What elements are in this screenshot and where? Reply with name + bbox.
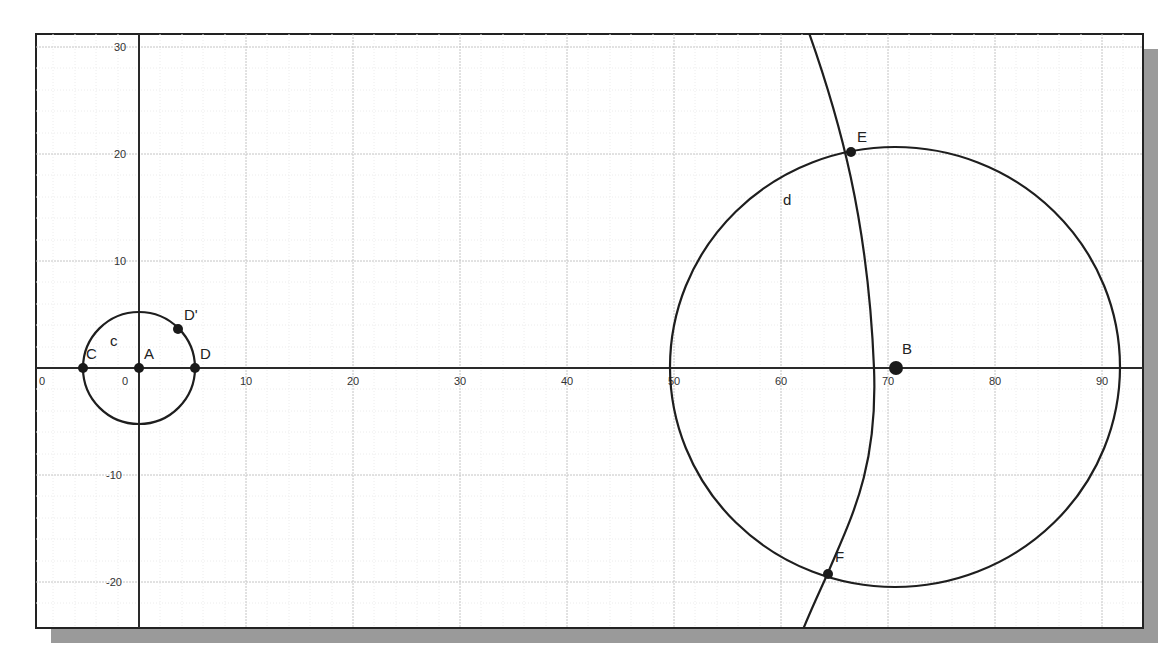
label-c: C xyxy=(86,345,97,362)
geometry-graphics-view[interactable]: 0 0 10 20 30 40 50 60 70 80 90 30 20 10 … xyxy=(0,0,1174,665)
label-d: D xyxy=(200,345,211,362)
y-tick-label: 30 xyxy=(114,41,126,53)
label-f: F xyxy=(835,548,844,565)
label-d-prime: D' xyxy=(184,306,198,323)
label-circle-d: d xyxy=(783,191,791,208)
x-tick-label: 70 xyxy=(882,375,894,387)
label-circle-c: c xyxy=(110,332,118,349)
x-tick-label: 20 xyxy=(347,375,359,387)
x-tick-label: 30 xyxy=(454,375,466,387)
x-tick-label: 0 xyxy=(39,375,45,387)
label-e: E xyxy=(857,128,867,145)
point-b[interactable] xyxy=(889,361,903,375)
y-tick-label: 20 xyxy=(114,148,126,160)
point-d[interactable] xyxy=(190,363,200,373)
label-b: B xyxy=(902,340,912,357)
point-d-prime[interactable] xyxy=(173,324,183,334)
point-f[interactable] xyxy=(823,569,833,579)
point-a[interactable] xyxy=(134,363,144,373)
x-tick-label: 0 xyxy=(122,375,128,387)
x-tick-label: 10 xyxy=(240,375,252,387)
y-tick-label: -10 xyxy=(106,469,122,481)
point-c[interactable] xyxy=(78,363,88,373)
label-a: A xyxy=(144,345,154,362)
x-tick-label: 40 xyxy=(561,375,573,387)
x-tick-label: 60 xyxy=(775,375,787,387)
x-tick-label: 90 xyxy=(1096,375,1108,387)
y-tick-label: 10 xyxy=(114,255,126,267)
graphics-frame xyxy=(36,34,1143,628)
x-tick-label: 80 xyxy=(989,375,1001,387)
point-e[interactable] xyxy=(846,147,856,157)
y-tick-label: -20 xyxy=(106,576,122,588)
